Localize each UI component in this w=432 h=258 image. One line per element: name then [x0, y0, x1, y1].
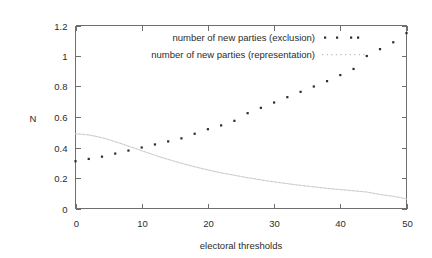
legend-sample-dot	[331, 54, 332, 55]
data-point-representation	[366, 191, 367, 192]
data-point-representation	[156, 155, 157, 156]
data-point-representation	[87, 134, 88, 135]
data-point-representation	[172, 160, 173, 161]
legend-sample-dot	[340, 54, 341, 55]
data-point-representation	[246, 177, 247, 178]
data-point-representation	[274, 181, 275, 182]
data-point-exclusion	[352, 68, 354, 70]
data-point-representation	[229, 174, 230, 175]
legend-sample-dot	[327, 54, 328, 55]
data-point-representation	[381, 194, 382, 195]
x-tick-label: 0	[74, 218, 79, 229]
data-point-representation	[82, 134, 83, 135]
data-point-exclusion	[233, 120, 235, 122]
data-point-representation	[397, 196, 398, 197]
legend-label-representation: number of new parties (representation)	[151, 49, 315, 60]
data-point-representation	[79, 133, 80, 134]
data-point-representation	[186, 164, 187, 165]
data-point-representation	[406, 198, 407, 199]
data-point-representation	[372, 192, 373, 193]
data-point-representation	[203, 168, 204, 169]
data-point-exclusion	[141, 146, 143, 148]
data-point-representation	[177, 162, 178, 163]
data-point-representation	[284, 183, 285, 184]
data-point-representation	[154, 155, 155, 156]
data-point-representation	[96, 136, 97, 137]
data-point-representation	[332, 188, 333, 189]
data-point-representation	[321, 187, 322, 188]
legend-sample-dot	[322, 54, 323, 55]
data-point-representation	[120, 143, 121, 144]
data-point-representation	[242, 176, 243, 177]
data-point-representation	[184, 163, 185, 164]
data-point-representation	[271, 181, 272, 182]
data-point-representation	[341, 189, 342, 190]
legend-sample-dot	[336, 37, 338, 39]
data-point-representation	[185, 164, 186, 165]
data-point-representation	[364, 191, 365, 192]
data-point-representation	[124, 144, 125, 145]
data-point-representation	[193, 166, 194, 167]
data-point-representation	[288, 183, 289, 184]
data-point-representation	[157, 156, 158, 157]
data-point-representation	[132, 147, 133, 148]
data-point-representation	[178, 162, 179, 163]
y-tick-label: 1.2	[54, 21, 67, 32]
data-point-representation	[226, 173, 227, 174]
data-point-representation	[95, 136, 96, 137]
data-point-representation	[234, 175, 235, 176]
data-point-representation	[325, 188, 326, 189]
data-point-representation	[369, 192, 370, 193]
data-point-representation	[112, 140, 113, 141]
data-point-representation	[390, 195, 391, 196]
data-point-representation	[299, 185, 300, 186]
data-point-representation	[264, 180, 265, 181]
y-tick-label: 1	[62, 51, 67, 62]
data-point-representation	[129, 146, 130, 147]
data-point-representation	[323, 187, 324, 188]
data-point-representation	[107, 139, 108, 140]
data-point-representation	[327, 188, 328, 189]
y-axis-title: N	[30, 113, 37, 124]
data-point-representation	[217, 171, 218, 172]
data-point-representation	[309, 186, 310, 187]
data-point-exclusion	[114, 153, 116, 155]
data-point-representation	[160, 156, 161, 157]
data-point-representation	[350, 190, 351, 191]
data-point-representation	[307, 186, 308, 187]
data-point-representation	[389, 195, 390, 196]
data-point-representation	[213, 171, 214, 172]
data-point-representation	[370, 192, 371, 193]
data-point-representation	[356, 191, 357, 192]
x-tick-label: 20	[203, 218, 214, 229]
legend-sample-dot	[336, 54, 337, 55]
data-point-representation	[137, 149, 138, 150]
data-point-representation	[214, 171, 215, 172]
data-point-representation	[149, 153, 150, 154]
data-point-representation	[231, 174, 232, 175]
data-point-exclusion	[194, 133, 196, 135]
data-point-representation	[259, 179, 260, 180]
data-point-representation	[316, 187, 317, 188]
data-point-representation	[161, 157, 162, 158]
y-tick-label: 0.2	[54, 173, 67, 184]
data-point-representation	[320, 187, 321, 188]
data-point-representation	[334, 189, 335, 190]
x-tick-label: 50	[402, 218, 413, 229]
data-point-representation	[170, 160, 171, 161]
data-point-representation	[113, 141, 114, 142]
data-point-representation	[158, 156, 159, 157]
data-point-representation	[256, 179, 257, 180]
data-point-representation	[225, 173, 226, 174]
data-point-representation	[345, 190, 346, 191]
data-point-representation	[387, 195, 388, 196]
data-point-representation	[209, 170, 210, 171]
data-point-exclusion	[101, 156, 103, 158]
data-point-representation	[198, 167, 199, 168]
data-point-representation	[142, 151, 143, 152]
data-point-representation	[164, 158, 165, 159]
data-point-representation	[402, 198, 403, 199]
data-point-representation	[340, 189, 341, 190]
data-point-representation	[374, 193, 375, 194]
data-point-representation	[305, 185, 306, 186]
